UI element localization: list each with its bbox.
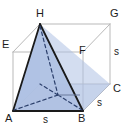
cube-edge-G-F bbox=[83, 24, 110, 52]
vertex-label-H: H bbox=[36, 8, 44, 19]
vertex-label-A: A bbox=[5, 113, 12, 124]
vertex-label-C: C bbox=[113, 83, 121, 94]
vertex-label-E: E bbox=[2, 39, 9, 50]
edge-label-vertical-right: s bbox=[114, 47, 119, 57]
vertex-label-B: B bbox=[78, 113, 85, 124]
vertex-label-G: G bbox=[110, 8, 119, 19]
cube-pyramid-drawing bbox=[0, 0, 129, 130]
edge-label-bottom-front: s bbox=[43, 115, 48, 125]
geometry-figure: H G E F C A B s s s bbox=[0, 0, 129, 130]
vertex-label-F: F bbox=[79, 45, 86, 56]
edge-label-bottom-right: s bbox=[97, 98, 102, 108]
